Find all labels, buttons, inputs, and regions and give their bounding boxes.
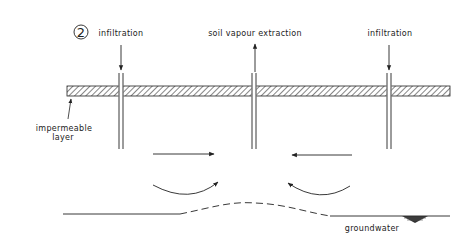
left-infiltration-label: infiltration xyxy=(99,29,144,38)
left-well xyxy=(119,73,124,149)
panel-number-badge: 2 xyxy=(74,25,88,40)
curved-arrow-left-icon xyxy=(288,183,350,195)
right-well xyxy=(387,73,392,149)
curved-arrow-right-icon xyxy=(153,182,218,194)
groundwater-table xyxy=(63,203,450,223)
panel-number: 2 xyxy=(77,25,85,40)
water-table-marker-icon xyxy=(402,216,428,223)
center-well xyxy=(252,73,257,149)
groundwater-label: groundwater xyxy=(345,224,400,233)
layer-leader-arrow-icon xyxy=(68,99,71,119)
layer-label: layer xyxy=(52,133,74,142)
diagram-canvas: 2 infiltration soil vapour extraction in… xyxy=(0,0,461,245)
soil-vapour-extraction-label: soil vapour extraction xyxy=(208,29,302,38)
impermeable-layer xyxy=(67,86,450,96)
impermeable-label: impermeable xyxy=(36,124,92,133)
right-infiltration-label: infiltration xyxy=(368,29,413,38)
